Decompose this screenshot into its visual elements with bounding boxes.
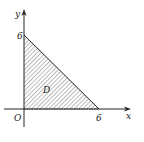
y-intercept-label: 6 (17, 31, 23, 41)
origin-label: O (14, 113, 22, 123)
coordinate-diagram: y x O 6 6 D (0, 0, 144, 142)
y-axis-label: y (14, 9, 21, 19)
region-d (24, 35, 99, 109)
x-axis-label: x (126, 111, 131, 121)
x-intercept-label: 6 (96, 113, 102, 123)
region-label: D (42, 85, 50, 95)
